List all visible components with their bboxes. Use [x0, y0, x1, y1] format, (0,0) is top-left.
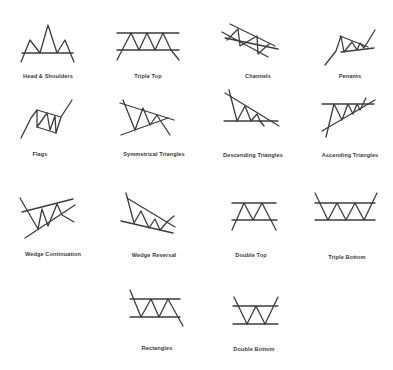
trendline [37, 110, 61, 117]
trendline [222, 32, 268, 57]
pattern-label-penants: Penants [339, 73, 361, 79]
pattern-head-shoulders [21, 25, 74, 62]
pattern-double-top [232, 203, 277, 230]
pattern-double-bottom [233, 297, 278, 324]
pattern-label-double-bottom: Double Bottom [233, 346, 274, 352]
pattern-penants [325, 30, 375, 65]
pattern-label-rectangles: Rectangles [142, 345, 173, 351]
pattern-label-wedge-continuation: Wedge Continuation [25, 251, 81, 257]
pattern-triple-bottom [315, 193, 377, 220]
price-path [234, 297, 278, 324]
pattern-flags [21, 100, 72, 138]
pattern-label-head-shoulders: Head & Shoulders [23, 73, 73, 79]
pattern-channels [222, 24, 278, 57]
price-path [117, 33, 179, 60]
price-path [21, 25, 74, 62]
price-path [130, 290, 183, 326]
pattern-label-wedge-reversal: Wedge Reversal [132, 252, 177, 258]
price-path [232, 203, 276, 230]
pattern-label-channels: Channels [245, 73, 271, 79]
pattern-wedge-continuation [20, 198, 75, 238]
price-path [21, 100, 72, 138]
pattern-label-triple-bottom: Triple Bottom [328, 254, 365, 260]
pattern-symmetrical-triangles [120, 100, 174, 135]
pattern-label-ascending-triangles: Ascending Triangles [322, 152, 379, 158]
pattern-label-triple-top: Triple Top [134, 73, 161, 79]
trendline [37, 127, 56, 133]
pattern-ascending-triangles [322, 98, 375, 137]
pattern-wedge-reversal [121, 193, 175, 233]
trendline [230, 24, 275, 46]
pattern-triple-top [117, 33, 179, 60]
pattern-label-descending-triangles: Descending Triangles [223, 152, 283, 158]
price-path [20, 198, 74, 229]
pattern-rectangles [130, 290, 183, 326]
price-path [123, 100, 170, 135]
pattern-label-double-top: Double Top [235, 252, 266, 258]
price-path [315, 193, 377, 220]
trendline [22, 199, 73, 212]
pattern-label-flags: Flags [32, 151, 47, 157]
pattern-descending-triangles [224, 90, 279, 126]
chart-patterns-diagram [0, 0, 393, 370]
pattern-label-symmetrical-triangles: Symmetrical Triangles [123, 151, 184, 157]
